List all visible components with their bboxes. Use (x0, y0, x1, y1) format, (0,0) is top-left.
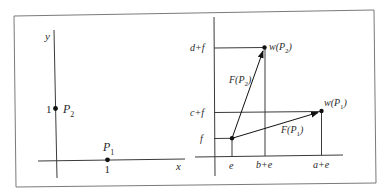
point-w-p2 (262, 45, 266, 49)
tick-a-plus-e: a+e (313, 159, 330, 170)
guide-c-plus-f (214, 112, 321, 113)
left-y-axis-label: y (44, 30, 50, 42)
point-w-p1 (319, 109, 323, 113)
label-f-p1: F(P1) (280, 124, 304, 138)
tick-y-1: 1 (46, 103, 52, 115)
point-p2 (53, 106, 58, 111)
tick-c-plus-f: c+f (190, 107, 205, 118)
label-f-p2: F(P2) (228, 74, 252, 88)
label-p2: P2 (62, 102, 74, 119)
left-x-axis (38, 159, 185, 161)
point-p1 (105, 157, 110, 162)
tick-f: f (200, 133, 204, 144)
left-y-axis (54, 30, 57, 178)
tick-b-plus-e: b+e (256, 159, 273, 170)
guide-d-plus-f (214, 48, 264, 49)
right-panel: d+f c+f f e b+e a+e w(P2) w(P1) F(P2) F(… (190, 17, 348, 176)
left-panel: y x 1 P2 1 P1 (38, 30, 185, 178)
left-x-axis-label: x (175, 160, 181, 172)
origin-point (230, 136, 234, 140)
right-y-axis (214, 17, 215, 176)
right-x-axis (195, 155, 343, 157)
label-w-p2: w(P2) (269, 41, 293, 55)
tick-e: e (229, 160, 234, 171)
diagram-figure: y x 1 P2 1 P1 d+f c+f f (0, 0, 385, 195)
vector-f-p2 (232, 51, 263, 138)
tick-x-1: 1 (105, 163, 111, 175)
vector-f-p1 (232, 113, 318, 139)
label-p1: P1 (102, 140, 114, 157)
label-w-p1: w(P1) (324, 97, 348, 111)
tick-d-plus-f: d+f (190, 42, 206, 53)
